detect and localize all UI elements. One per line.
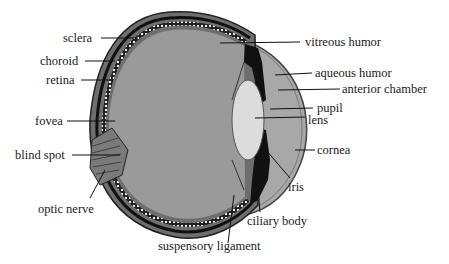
label-ciliary-body: ciliary body [247,214,308,228]
label-choroid: choroid [40,54,79,68]
label-lens: lens [308,113,328,127]
label-cornea: cornea [317,143,351,157]
lens-shape [232,80,264,160]
label-aqueous-humor: aqueous humor [315,66,393,80]
vitreous-humor-shape [109,30,245,219]
label-blind-spot: blind spot [15,148,65,162]
label-sclera: sclera [63,31,93,45]
label-retina: retina [46,73,75,87]
label-anterior-chamber: anterior chamber [342,82,428,96]
label-optic-nerve: optic nerve [38,202,94,216]
label-suspensory-ligament: suspensory ligament [158,239,261,253]
label-iris: iris [288,180,304,194]
label-fovea: fovea [35,114,63,128]
label-vitreous-humor: vitreous humor [305,35,382,49]
eye-diagram: sclera choroid retina fovea blind spot o… [0,0,449,264]
